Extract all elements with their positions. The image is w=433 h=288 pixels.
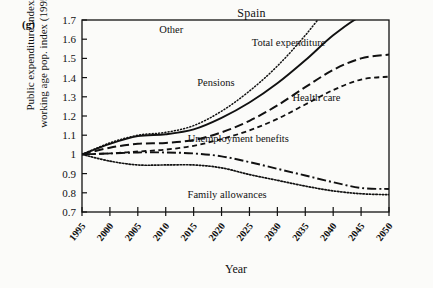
x-tick-label: 2035	[290, 220, 311, 243]
series-label-other: Other	[159, 24, 183, 35]
series-label-unemployment-benefits: Unemployment benefits	[188, 133, 289, 144]
series-line-other	[82, 0, 389, 154]
x-tick-label: 2050	[374, 220, 395, 243]
chart-plot: 0.70.80.911.11.21.31.41.51.61.7199520002…	[0, 0, 433, 288]
series-curves	[82, 0, 389, 195]
x-tick-label: 1995	[67, 220, 88, 243]
x-tick-label: 2040	[318, 220, 339, 243]
y-tick-label: 1.1	[62, 129, 76, 141]
y-tick-label: 1.5	[62, 52, 76, 64]
y-tick-label: 1.7	[62, 14, 76, 26]
x-tick-label: 2010	[150, 220, 171, 243]
y-tick-label: 1.4	[62, 72, 76, 84]
y-tick-label: 0.9	[62, 168, 76, 180]
figure-container: (g) Spain Public expenditure index/ work…	[0, 0, 433, 288]
x-tick-label: 2025	[234, 220, 255, 243]
series-label-health-care: Health care	[292, 92, 340, 103]
series-label-family-allowances: Family allowances	[188, 189, 267, 200]
y-tick-label: 1.3	[62, 91, 76, 103]
x-tick-label: 2030	[262, 220, 283, 243]
x-tick-label: 2045	[346, 220, 367, 243]
series-label-total-expenditure: Total expenditure	[252, 37, 326, 48]
series-label-pensions: Pensions	[197, 77, 234, 88]
series-labels: Total expenditureOtherPensionsHealth car…	[159, 24, 340, 199]
y-tick-label: 0.8	[62, 187, 76, 199]
y-axis-ticks: 0.70.80.911.11.21.31.41.51.61.7	[62, 14, 87, 218]
x-tick-label: 2020	[206, 220, 227, 243]
y-tick-label: 1.6	[62, 33, 76, 45]
y-tick-label: 0.7	[62, 206, 76, 218]
x-tick-label: 2015	[178, 220, 199, 243]
plot-frame	[82, 20, 389, 212]
x-tick-label: 2005	[122, 220, 143, 243]
x-tick-label: 2000	[95, 220, 116, 243]
y-tick-label: 1.2	[62, 110, 76, 122]
y-tick-label: 1	[71, 148, 77, 160]
